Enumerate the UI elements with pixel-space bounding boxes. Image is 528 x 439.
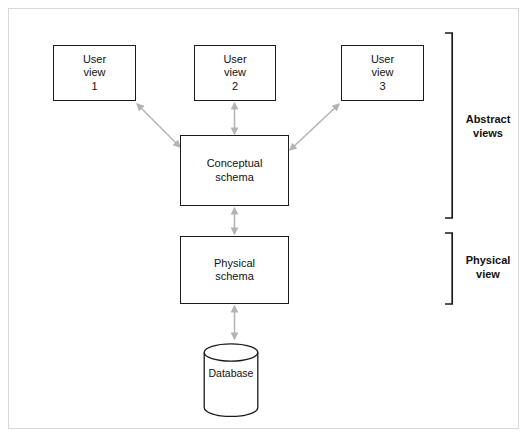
node-user-view-2-line-2: view [224, 66, 246, 80]
node-physical-schema: Physical schema [180, 236, 289, 304]
node-physical-schema-line-1: Physical [214, 257, 255, 271]
node-conceptual-schema-line-2: schema [215, 171, 254, 185]
group-label-physical-view-line-2: view [459, 267, 517, 281]
group-label-physical-view: Physical view [459, 253, 517, 281]
node-user-view-3: User view 3 [341, 45, 424, 101]
diagram-canvas: User view 1 User view 2 User view 3 Conc… [0, 0, 528, 439]
node-user-view-3-line-2: view [371, 66, 393, 80]
node-user-view-1-line-2: view [83, 66, 105, 80]
node-user-view-3-line-3: 3 [379, 80, 385, 94]
node-database-label: Database [203, 367, 259, 379]
node-user-view-1-line-1: User [83, 53, 106, 67]
node-conceptual-schema-line-1: Conceptual [207, 157, 263, 171]
node-conceptual-schema: Conceptual schema [180, 135, 289, 206]
node-user-view-2-line-3: 2 [232, 80, 238, 94]
group-label-abstract-views-line-1: Abstract [459, 112, 517, 126]
group-label-abstract-views: Abstract views [459, 112, 517, 140]
node-user-view-2-line-1: User [223, 53, 246, 67]
group-label-abstract-views-line-2: views [459, 126, 517, 140]
node-user-view-1-line-3: 1 [91, 80, 97, 94]
database-cylinder-icon [203, 343, 259, 417]
bracket-physical-view [442, 232, 456, 305]
bracket-abstract-views [442, 32, 456, 219]
group-label-physical-view-line-1: Physical [459, 253, 517, 267]
node-user-view-3-line-1: User [371, 53, 394, 67]
node-user-view-1: User view 1 [53, 45, 136, 101]
node-user-view-2: User view 2 [194, 45, 276, 101]
node-physical-schema-line-2: schema [215, 270, 254, 284]
